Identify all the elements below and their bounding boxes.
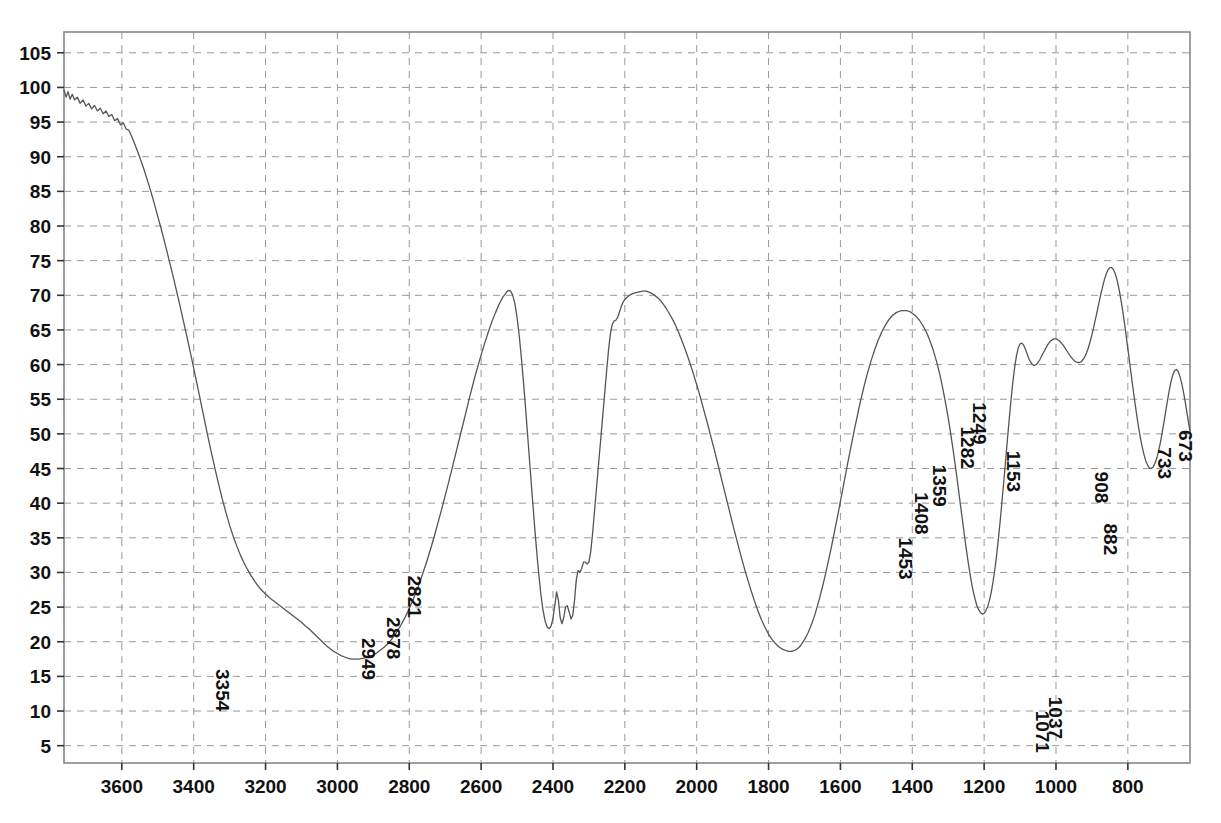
peak-annotation: 733 (1154, 447, 1175, 479)
y-tick-label: 65 (30, 320, 52, 341)
x-tick-label: 1800 (747, 776, 789, 797)
peak-annotation: 1359 (929, 465, 950, 507)
x-tick-label: 2400 (532, 776, 574, 797)
x-tick-label: 3000 (316, 776, 358, 797)
x-tick-label: 1000 (1035, 776, 1077, 797)
y-tick-label: 55 (30, 389, 52, 410)
x-tick-label: 3200 (244, 776, 286, 797)
peak-annotations: 3354294928782821145314081359128212491153… (212, 402, 1196, 753)
x-tick-label: 3600 (101, 776, 143, 797)
peak-label: 882 (1100, 524, 1121, 556)
peak-annotation: 1153 (1003, 451, 1024, 492)
peak-label: 1153 (1003, 451, 1024, 492)
peak-annotation: 1037 (1045, 697, 1066, 739)
x-axis-ticks: 3600340032003000280026002400220020001800… (101, 763, 1144, 797)
y-tick-label: 15 (30, 666, 52, 687)
peak-label: 673 (1175, 430, 1196, 462)
peak-label: 2949 (358, 638, 379, 680)
y-tick-label: 40 (30, 493, 51, 514)
peak-label: 1249 (969, 402, 990, 444)
spectrum-curve (64, 90, 1190, 659)
grid-lines (64, 32, 1190, 763)
y-tick-label: 35 (30, 528, 52, 549)
y-tick-label: 85 (30, 181, 52, 202)
y-axis-ticks: 5101520253035404550556065707580859095100… (19, 43, 64, 757)
y-tick-label: 25 (30, 597, 52, 618)
y-tick-label: 90 (30, 147, 51, 168)
y-tick-label: 95 (30, 112, 52, 133)
x-tick-label: 3400 (173, 776, 215, 797)
x-tick-label: 2200 (604, 776, 646, 797)
peak-label: 1037 (1045, 697, 1066, 739)
y-tick-label: 50 (30, 424, 51, 445)
y-tick-label: 105 (19, 43, 51, 64)
x-tick-label: 1200 (963, 776, 1005, 797)
x-tick-label: 2600 (460, 776, 502, 797)
x-tick-label: 2800 (388, 776, 430, 797)
peak-annotation: 2949 (358, 638, 379, 680)
plot-frame (64, 32, 1190, 763)
x-tick-label: 800 (1112, 776, 1144, 797)
spectrum-plot: 5101520253035404550556065707580859095100… (0, 0, 1221, 823)
peak-label: 3354 (212, 669, 233, 712)
peak-annotation: 2878 (383, 617, 404, 659)
y-tick-label: 20 (30, 632, 51, 653)
y-tick-label: 70 (30, 285, 51, 306)
y-tick-label: 60 (30, 355, 51, 376)
peak-label: 2821 (404, 576, 425, 619)
y-tick-label: 30 (30, 562, 51, 583)
x-tick-label: 1600 (819, 776, 861, 797)
peak-label: 733 (1154, 447, 1175, 479)
peak-annotation: 908 (1091, 472, 1112, 504)
x-tick-label: 2000 (676, 776, 718, 797)
ir-spectrum-figure: 5101520253035404550556065707580859095100… (0, 0, 1221, 823)
peak-annotation: 2821 (404, 576, 425, 619)
peak-label: 908 (1091, 472, 1112, 504)
peak-annotation: 882 (1100, 524, 1121, 556)
y-tick-label: 100 (19, 77, 51, 98)
peak-annotation: 3354 (212, 669, 233, 712)
y-tick-label: 80 (30, 216, 51, 237)
y-tick-label: 75 (30, 251, 52, 272)
peak-label: 2878 (383, 617, 404, 659)
y-tick-label: 5 (40, 736, 51, 757)
peak-annotation: 1453 (895, 537, 916, 579)
peak-label: 1359 (929, 465, 950, 507)
y-tick-label: 10 (30, 701, 51, 722)
peak-annotation: 673 (1175, 430, 1196, 462)
x-tick-label: 1400 (891, 776, 933, 797)
peak-label: 1453 (895, 537, 916, 579)
peak-annotation: 1249 (969, 402, 990, 444)
y-tick-label: 45 (30, 459, 52, 480)
spectrum-trace (64, 90, 1190, 659)
